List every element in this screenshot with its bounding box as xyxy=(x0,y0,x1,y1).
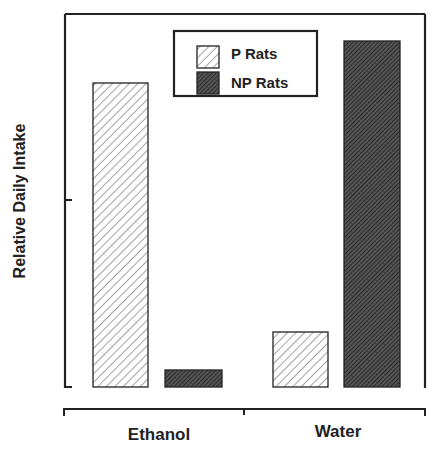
bar-ethanol-p xyxy=(93,83,148,387)
x-label-ethanol: Ethanol xyxy=(128,425,190,444)
y-axis-label: Relative Daily Intake xyxy=(11,124,28,279)
legend: P Rats NP Rats xyxy=(174,31,317,96)
bar-water-p xyxy=(273,332,328,387)
legend-swatch-np xyxy=(197,72,219,94)
chart-canvas: P Rats NP Rats Relative Daily Intake Eth… xyxy=(0,0,436,455)
legend-label-np: NP Rats xyxy=(231,74,288,91)
x-axis xyxy=(64,408,425,416)
legend-label-p: P Rats xyxy=(231,45,277,62)
bar-ethanol-np xyxy=(165,370,222,387)
legend-swatch-p xyxy=(197,46,219,68)
x-label-water: Water xyxy=(315,422,362,441)
bar-water-np xyxy=(344,41,400,387)
